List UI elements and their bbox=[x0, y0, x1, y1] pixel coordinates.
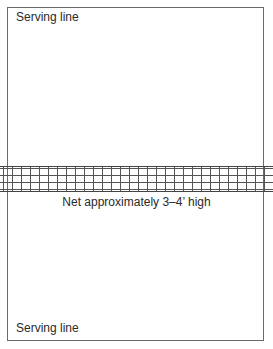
net-caption: Net approximately 3–4’ high bbox=[0, 195, 273, 209]
bottom-serving-line-label: Serving line bbox=[16, 321, 79, 335]
top-serving-line-label: Serving line bbox=[16, 10, 79, 24]
net bbox=[0, 166, 273, 192]
